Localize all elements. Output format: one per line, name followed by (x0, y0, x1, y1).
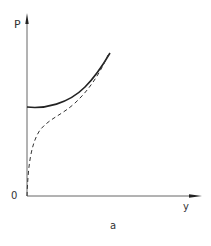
x-axis (27, 194, 202, 197)
y-axis-label: P (14, 19, 21, 30)
y-axis-arrow-icon (25, 13, 28, 24)
origin-label: 0 (11, 191, 17, 201)
figure-caption: a (110, 221, 116, 231)
y-axis (25, 13, 28, 196)
x-axis-arrow-icon (189, 194, 202, 197)
diagram-figure: P 0 y a (0, 0, 211, 246)
x-axis-label: y (183, 202, 189, 212)
dashed-curve (27, 55, 108, 196)
solid-curve (27, 53, 110, 107)
plot-svg (0, 0, 211, 246)
